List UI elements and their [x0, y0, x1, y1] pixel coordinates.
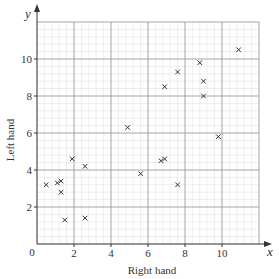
y-axis-label: Left hand: [4, 118, 16, 161]
x-tick-label: 2: [71, 247, 77, 259]
x-tick-label: 8: [182, 247, 188, 259]
x-tick-labels: 246810: [71, 244, 228, 259]
x-tick-label: 4: [108, 247, 114, 259]
x-tick-label: 6: [145, 247, 151, 259]
x-tick-label: 10: [217, 247, 229, 259]
y-tick-label: 10: [21, 53, 33, 65]
data-point-marker: [83, 216, 88, 221]
scatter-chart: 246810 246810 0 x y Right hand Left hand: [0, 0, 279, 279]
y-tick-label: 2: [27, 201, 33, 213]
x-axis-label: Right hand: [128, 264, 177, 276]
y-axis-letter: y: [23, 6, 31, 21]
y-tick-labels: 246810: [21, 53, 37, 213]
y-tick-label: 6: [27, 127, 33, 139]
y-tick-label: 4: [27, 164, 33, 176]
origin-label: 0: [29, 246, 35, 258]
major-grid: [37, 22, 259, 244]
y-tick-label: 8: [27, 90, 33, 102]
data-point-marker: [216, 134, 221, 139]
data-point-marker: [83, 164, 88, 169]
x-axis-letter: x: [266, 244, 273, 259]
